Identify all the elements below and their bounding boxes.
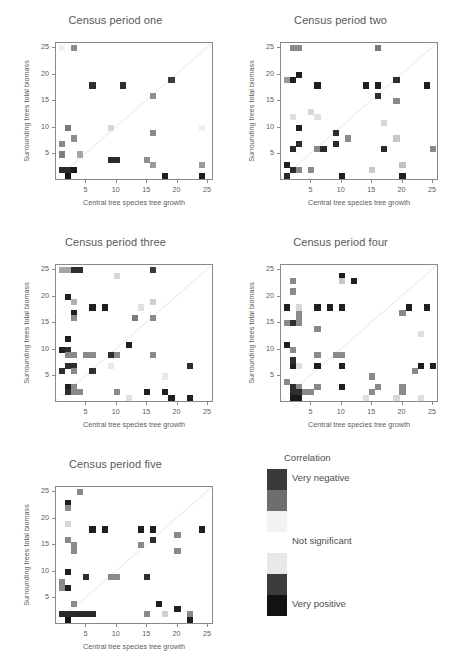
data-cell [65, 617, 71, 623]
data-cell [296, 167, 302, 173]
x-tickmark [85, 402, 86, 405]
data-cell [71, 548, 77, 554]
data-cell [162, 611, 168, 617]
y-tick-label: 5 [258, 148, 274, 157]
y-tick-label: 20 [258, 291, 274, 300]
x-tick-label: 15 [136, 407, 156, 416]
legend-swatch [267, 511, 287, 532]
data-cell [314, 384, 320, 390]
data-cell [333, 141, 339, 147]
plot-area [55, 264, 213, 402]
data-cell [399, 310, 405, 316]
data-cell [369, 389, 375, 395]
y-tick-label: 5 [258, 370, 274, 379]
x-tickmark [146, 624, 147, 627]
data-cell [59, 368, 65, 374]
x-axis-label: Central tree species tree growth [280, 198, 438, 207]
plot-area [280, 264, 438, 402]
y-tickmark [52, 74, 55, 75]
y-tick-label: 15 [258, 95, 274, 104]
data-cell [138, 526, 144, 532]
plot-area [55, 42, 213, 180]
panel-3: Census period three510152025510152025Cen… [8, 236, 223, 448]
data-cell [381, 146, 387, 152]
y-tick-label: 10 [33, 344, 49, 353]
x-tickmark [402, 402, 403, 405]
data-cell [375, 45, 381, 51]
data-cell [108, 125, 114, 131]
y-tickmark [52, 47, 55, 48]
figure-canvas: Census period one510152025510152025Centr… [0, 0, 455, 664]
data-cell [375, 384, 381, 390]
data-cell [399, 389, 405, 395]
data-cell [114, 273, 120, 279]
data-cell [150, 130, 156, 136]
y-tick-label: 15 [258, 317, 274, 326]
data-cell [369, 167, 375, 173]
data-cell [399, 162, 405, 168]
y-tick-label: 25 [258, 264, 274, 273]
data-cell [59, 585, 65, 591]
x-axis-label: Central tree species tree growth [55, 420, 213, 429]
identity-line [281, 265, 437, 401]
x-tickmark [116, 624, 117, 627]
data-cell [345, 135, 351, 141]
x-tick-label: 25 [422, 407, 442, 416]
legend-title: Correlation [284, 452, 330, 463]
x-tickmark [116, 180, 117, 183]
data-cell [89, 82, 95, 88]
panel-title: Census period three [8, 236, 223, 248]
legend-swatch [267, 469, 287, 490]
data-cell [418, 331, 424, 337]
data-cell [284, 304, 290, 310]
identity-line [281, 43, 437, 179]
data-cell [290, 357, 296, 363]
data-cell [339, 352, 345, 358]
data-cell [430, 146, 436, 152]
data-cell [339, 304, 345, 310]
x-tick-label: 25 [422, 185, 442, 194]
x-tickmark [207, 402, 208, 405]
data-cell [83, 574, 89, 580]
data-cell [59, 173, 65, 179]
y-tickmark [277, 269, 280, 270]
x-tick-label: 20 [167, 185, 187, 194]
data-cell [77, 267, 83, 273]
data-cell [320, 146, 326, 152]
data-cell [138, 304, 144, 310]
y-tickmark [52, 153, 55, 154]
data-cell [187, 617, 193, 623]
y-tickmark [52, 349, 55, 350]
data-cell [162, 373, 168, 379]
data-cell [65, 173, 71, 179]
data-cell [168, 395, 174, 401]
data-cell [71, 135, 77, 141]
data-cell [399, 173, 405, 179]
data-cell [114, 389, 120, 395]
data-cell [126, 395, 132, 401]
data-cell [187, 363, 193, 369]
x-tick-label: 25 [197, 185, 217, 194]
data-cell [381, 120, 387, 126]
data-cell [114, 574, 120, 580]
x-tick-label: 20 [392, 185, 412, 194]
data-cell [114, 157, 120, 163]
y-tick-label: 20 [33, 513, 49, 522]
data-cell [187, 395, 193, 401]
legend-swatch [267, 490, 287, 511]
data-cell [144, 574, 150, 580]
data-cell [296, 304, 302, 310]
panel-2: Census period two510152025510152025Centr… [233, 14, 448, 226]
y-tickmark [52, 296, 55, 297]
x-tickmark [310, 180, 311, 183]
data-cell [393, 135, 399, 141]
data-cell [126, 342, 132, 348]
data-cell [71, 601, 77, 607]
data-cell [150, 526, 156, 532]
data-cell [406, 304, 412, 310]
data-cell [174, 532, 180, 538]
data-cell [71, 45, 77, 51]
y-tick-label: 25 [258, 42, 274, 51]
data-cell [424, 304, 430, 310]
data-cell [363, 395, 369, 401]
